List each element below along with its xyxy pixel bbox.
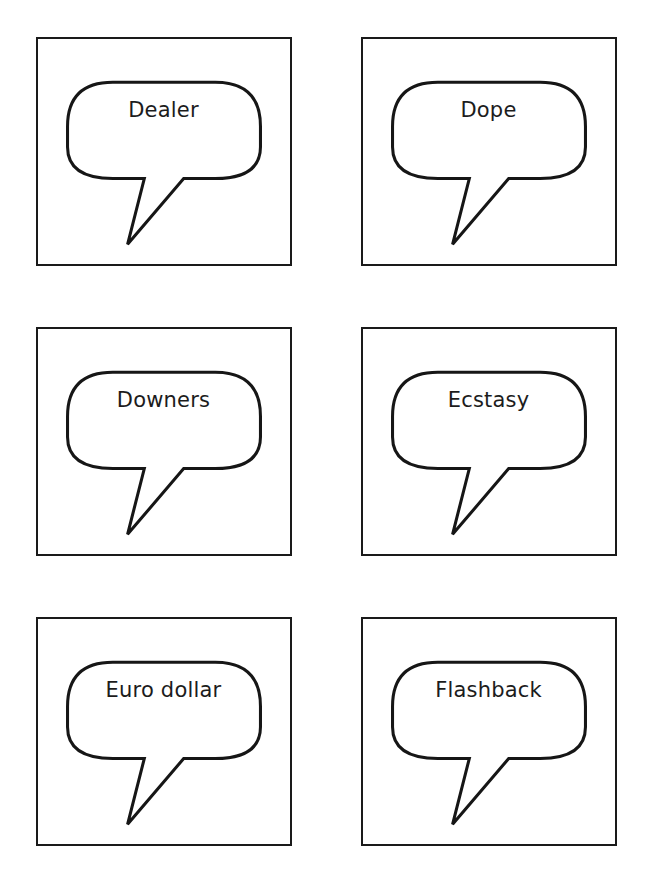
card-grid: Dealer Dope Downers Ecstasy Euro dollar …: [0, 0, 652, 879]
bubble-card[interactable]: Flashback: [361, 617, 617, 846]
speech-bubble-icon: [38, 39, 290, 264]
bubble-card[interactable]: Euro dollar: [36, 617, 292, 846]
speech-bubble-icon: [363, 619, 615, 844]
speech-bubble-icon: [363, 39, 615, 264]
bubble-card[interactable]: Downers: [36, 327, 292, 556]
speech-bubble-icon: [38, 329, 290, 554]
speech-bubble-icon: [363, 329, 615, 554]
bubble-card[interactable]: Ecstasy: [361, 327, 617, 556]
bubble-card[interactable]: Dealer: [36, 37, 292, 266]
speech-bubble-icon: [38, 619, 290, 844]
bubble-card[interactable]: Dope: [361, 37, 617, 266]
